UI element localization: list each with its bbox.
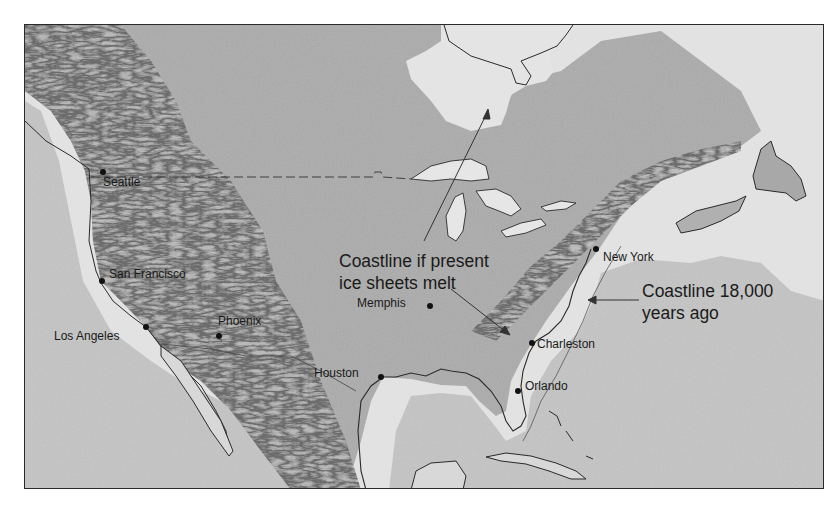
city-dot-houston [378,374,384,380]
city-label-houston: Houston [314,367,359,379]
city-label-los-angeles: Los Angeles [54,330,119,342]
ancient-coastline-label: Coastline 18,000 years ago [642,280,773,324]
city-dot-memphis [427,303,433,309]
city-label-charleston: Charleston [537,338,595,350]
city-dot-new-york [593,246,599,252]
city-label-orlando: Orlando [525,380,568,392]
city-dot-san-francisco [99,278,105,284]
city-dot-charleston [529,340,535,346]
ancient-coastline-line1: Coastline 18,000 [642,280,773,302]
map-frame: Seattle San Francisco Los Angeles Phoeni… [24,24,824,489]
city-label-san-francisco: San Francisco [109,268,186,280]
city-label-memphis: Memphis [357,297,406,309]
city-dot-phoenix [216,333,222,339]
future-coastline-label: Coastline if present ice sheets melt [339,250,489,294]
city-label-phoenix: Phoenix [218,315,261,327]
ancient-coastline-line2: years ago [642,302,773,324]
city-dot-los-angeles [143,324,149,330]
city-label-new-york: New York [603,251,654,263]
future-coastline-line1: Coastline if present [339,250,489,272]
city-dot-orlando [515,388,521,394]
future-coastline-line2: ice sheets melt [339,272,489,294]
city-label-seattle: Seattle [103,176,140,188]
